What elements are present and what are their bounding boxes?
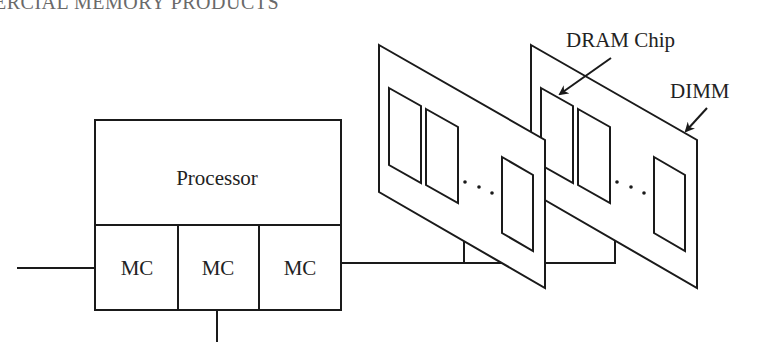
ellipsis-dot: [629, 185, 633, 189]
processor-block: Processor MC MC MC: [95, 120, 341, 310]
processor-box: [95, 120, 341, 310]
dram-chip: [389, 88, 421, 183]
dimm-arrow-icon: [686, 108, 707, 131]
ellipsis-dot: [490, 191, 494, 195]
processor-label: Processor: [176, 166, 258, 190]
memory-controller-label-2: MC: [202, 256, 235, 280]
memory-system-diagram: Processor MC MC MC DRAM Chip DIMM: [0, 0, 766, 355]
ellipsis-dot: [642, 191, 646, 195]
dram-chip-label: DRAM Chip: [566, 28, 675, 52]
dimm-1: [379, 45, 545, 288]
memory-controller-label-3: MC: [284, 256, 317, 280]
ellipsis-dot: [615, 180, 619, 184]
memory-controller-label-1: MC: [121, 256, 154, 280]
dimm-label: DIMM: [670, 79, 730, 103]
ellipsis-dot: [477, 185, 481, 189]
ellipsis-dot: [463, 180, 467, 184]
